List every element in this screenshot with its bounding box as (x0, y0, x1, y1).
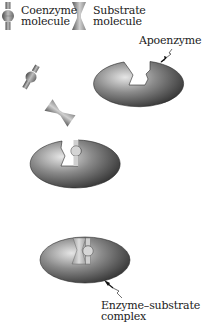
enzyme-diagram (0, 0, 202, 326)
enzyme-substrate-complex-shape (40, 237, 130, 283)
apoenzyme-shape (94, 62, 184, 107)
complex-label-line2: complex (101, 311, 200, 322)
legend-substrate-label: Substrate molecule (93, 5, 146, 27)
legend-substrate-line2: molecule (93, 16, 146, 27)
coenzyme-molecule-icon (2, 2, 14, 30)
apoenzyme-pointer-arrow (160, 49, 172, 63)
legend-coenzyme-line2: molecule (21, 16, 77, 27)
free-substrate-molecule (45, 99, 76, 127)
holoenzyme-shape (30, 140, 120, 188)
legend-coenzyme-label: Coenzyme molecule (21, 5, 77, 27)
apoenzyme-label: Apoenzyme (139, 35, 201, 46)
complex-pointer-arrow (104, 280, 122, 298)
free-coenzyme-molecule (20, 63, 43, 91)
enzyme-substrate-complex-label: Enzyme–substrate complex (101, 300, 200, 322)
